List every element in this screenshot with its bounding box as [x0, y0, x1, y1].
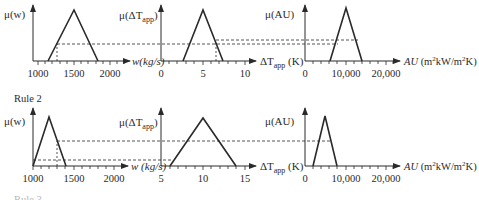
r1-p3-tick-label: 0 — [302, 69, 307, 80]
r2-p2-ticks — [170, 166, 245, 170]
r2-p1-ticks — [33, 166, 114, 170]
r1-p3-tick-label: 10,000 — [332, 69, 361, 80]
r1-p2-y-label: μ(ΔTapp) — [119, 10, 158, 24]
r2-p3-y-label: μ(AU) — [265, 116, 294, 127]
r1-p2-ticks — [169, 61, 245, 65]
r2-p3-tick-label: 0 — [302, 174, 307, 185]
r2-p2-membership-triangle — [170, 118, 236, 166]
rule-1-row — [33, 5, 400, 65]
r2-p1-x-label: w (kg/s) — [131, 161, 166, 172]
r1-p2-tick-label: 0 — [158, 69, 163, 80]
r1-p1-ticks — [38, 61, 124, 65]
r2-p2-tick-label: 15 — [240, 174, 251, 185]
r1-p2-tick-label: 5 — [200, 69, 205, 80]
r1-p1-x-label: w(kg/s) — [132, 56, 164, 67]
r1-p1-tick-label: 1000 — [28, 69, 49, 80]
r2-p2-x-label: ΔTapp (K) — [260, 161, 303, 175]
r2-p2-tick-label: 10 — [198, 174, 209, 185]
r1-p3-tick-label: 20,000 — [372, 69, 401, 80]
r1-p3-membership-triangle — [330, 8, 362, 61]
r1-p1-y-label: μ(w) — [4, 9, 25, 20]
r1-p3-ticks — [313, 61, 393, 65]
r2-p3-tick-label: 10,000 — [332, 174, 361, 185]
r1-p1-tick-label: 1500 — [64, 69, 85, 80]
r2-p1-tick-label: 2000 — [104, 174, 125, 185]
rule-2-title: Rule 2 — [14, 94, 42, 105]
r1-p1-tick-label: 2000 — [100, 69, 121, 80]
r2-p1-membership-triangle — [33, 117, 66, 166]
r1-p3-x-label: AU (m2kW/m2K) — [404, 56, 477, 68]
r1-p2-x-label: ΔTapp (K) — [260, 56, 303, 70]
rule-2-row — [33, 108, 400, 170]
r2-p3-ticks — [313, 166, 393, 170]
r2-p2-tick-label: 5 — [158, 174, 163, 185]
r2-p1-tick-label: 1000 — [23, 174, 44, 185]
r2-p2-y-label: μ(ΔTapp) — [119, 117, 158, 131]
r2-p3-tick-label: 20,000 — [372, 174, 401, 185]
r1-p3-y-label: μ(AU) — [265, 9, 294, 20]
r1-p1-membership-triangle — [48, 10, 98, 61]
r1-p2-membership-triangle — [183, 10, 223, 61]
r1-p2-tick-label: 10 — [240, 69, 251, 80]
r2-p1-y-label: μ(w) — [4, 116, 25, 127]
rule-3-title: Rule 3 — [14, 195, 42, 200]
r2-p1-tick-label: 1500 — [64, 174, 85, 185]
r2-p3-x-label: AU (m2kW/m2K) — [404, 161, 477, 173]
